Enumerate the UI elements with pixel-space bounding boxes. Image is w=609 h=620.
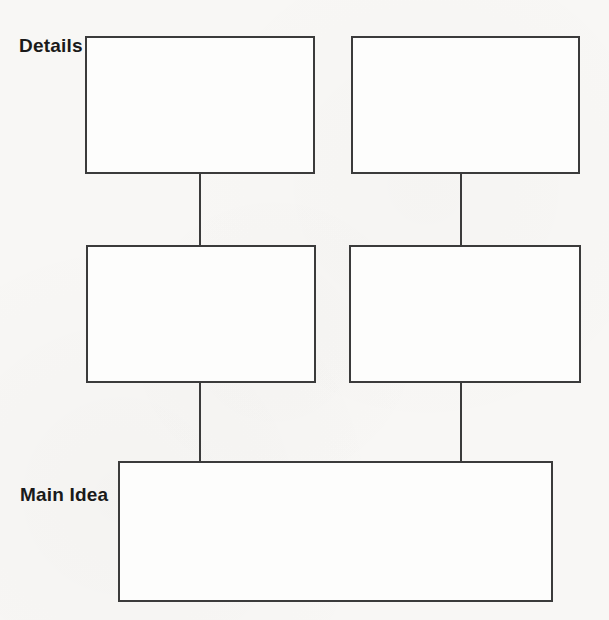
connector-right-column-to-main	[460, 383, 462, 461]
main-idea-label: Main Idea	[20, 485, 108, 504]
connector-top-left-column	[199, 174, 201, 245]
detail-box-top-left	[85, 36, 315, 174]
detail-box-middle-left	[86, 245, 316, 383]
main-idea-box	[118, 461, 553, 602]
details-label: Details	[19, 36, 83, 55]
connector-left-column-to-main	[199, 383, 201, 461]
graphic-organizer-page: Details Main Idea	[0, 0, 609, 620]
detail-box-middle-right	[349, 245, 581, 383]
connector-top-right-column	[460, 174, 462, 245]
detail-box-top-right	[351, 36, 580, 174]
